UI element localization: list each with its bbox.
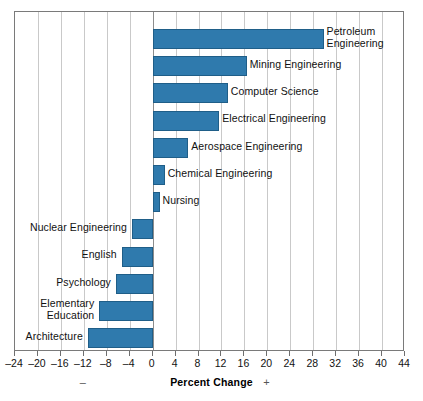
x-axis: –24–20–16–12–8–4048121620242832364044 Pe…: [0, 351, 423, 401]
tick-label-16: 16: [238, 357, 250, 369]
gridline--20: [38, 12, 39, 350]
tick-mark--8: [106, 351, 107, 356]
gridline-40: [382, 12, 383, 350]
tick-label--4: –4: [123, 357, 135, 369]
bar-label: Electrical Engineering: [222, 113, 326, 125]
tick-label--20: –20: [28, 357, 46, 369]
tick-mark-28: [312, 351, 313, 356]
bar-label: Chemical Engineering: [168, 168, 273, 180]
tick-label-32: 32: [329, 357, 341, 369]
tick-label--8: –8: [100, 357, 112, 369]
bar: [153, 138, 189, 158]
tick-label--16: –16: [51, 357, 69, 369]
bar-label: Petroleum Engineering: [327, 26, 384, 49]
bar-label: Psychology: [56, 277, 111, 289]
bar: [132, 219, 153, 239]
bar-label: Nursing: [163, 195, 200, 207]
tick-mark--24: [14, 351, 15, 356]
tick-mark--20: [37, 351, 38, 356]
tick-mark-24: [289, 351, 290, 356]
tick-label--12: –12: [74, 357, 92, 369]
x-axis-title: Percent Change: [0, 376, 423, 388]
bar-label: Aerospace Engineering: [191, 141, 302, 153]
tick-label-0: 0: [149, 357, 155, 369]
tick-label-28: 28: [306, 357, 318, 369]
tick-mark-36: [358, 351, 359, 356]
gridline--8: [107, 12, 108, 350]
tick-label-40: 40: [375, 357, 387, 369]
tick-mark-44: [404, 351, 405, 356]
bar-label: Elementary Education: [40, 298, 94, 321]
tick-mark-16: [243, 351, 244, 356]
bar: [153, 83, 228, 103]
tick-mark--16: [60, 351, 61, 356]
positive-sign-marker: +: [263, 376, 269, 388]
bar: [122, 247, 153, 267]
bar-label: Computer Science: [231, 86, 319, 98]
tick-mark-12: [220, 351, 221, 356]
tick-label-12: 12: [215, 357, 227, 369]
tick-mark-20: [266, 351, 267, 356]
tick-label-8: 8: [195, 357, 201, 369]
bar: [153, 56, 247, 76]
gridline--4: [130, 12, 131, 350]
tick-label-44: 44: [398, 357, 410, 369]
tick-label-24: 24: [283, 357, 295, 369]
tick-mark-32: [335, 351, 336, 356]
bar: [88, 328, 153, 348]
tick-mark--4: [129, 351, 130, 356]
tick-mark--12: [83, 351, 84, 356]
bar-label: English: [82, 249, 117, 261]
bar-chart: Petroleum EngineeringMining EngineeringC…: [0, 0, 423, 401]
bar: [153, 192, 160, 212]
bar: [99, 301, 152, 321]
tick-mark-8: [198, 351, 199, 356]
tick-label-20: 20: [261, 357, 273, 369]
negative-sign-marker: –: [80, 376, 86, 388]
bar: [116, 274, 153, 294]
bar-label: Architecture: [26, 331, 83, 343]
bar: [153, 111, 220, 131]
bar-label: Mining Engineering: [250, 59, 342, 71]
bar-label: Nuclear Engineering: [30, 222, 127, 234]
tick-mark-4: [175, 351, 176, 356]
tick-mark-0: [152, 351, 153, 356]
gridline-36: [359, 12, 360, 350]
tick-mark-40: [381, 351, 382, 356]
tick-label-4: 4: [172, 357, 178, 369]
bar: [153, 29, 324, 49]
tick-label--24: –24: [5, 357, 23, 369]
tick-label-36: 36: [352, 357, 364, 369]
bar: [153, 165, 165, 185]
